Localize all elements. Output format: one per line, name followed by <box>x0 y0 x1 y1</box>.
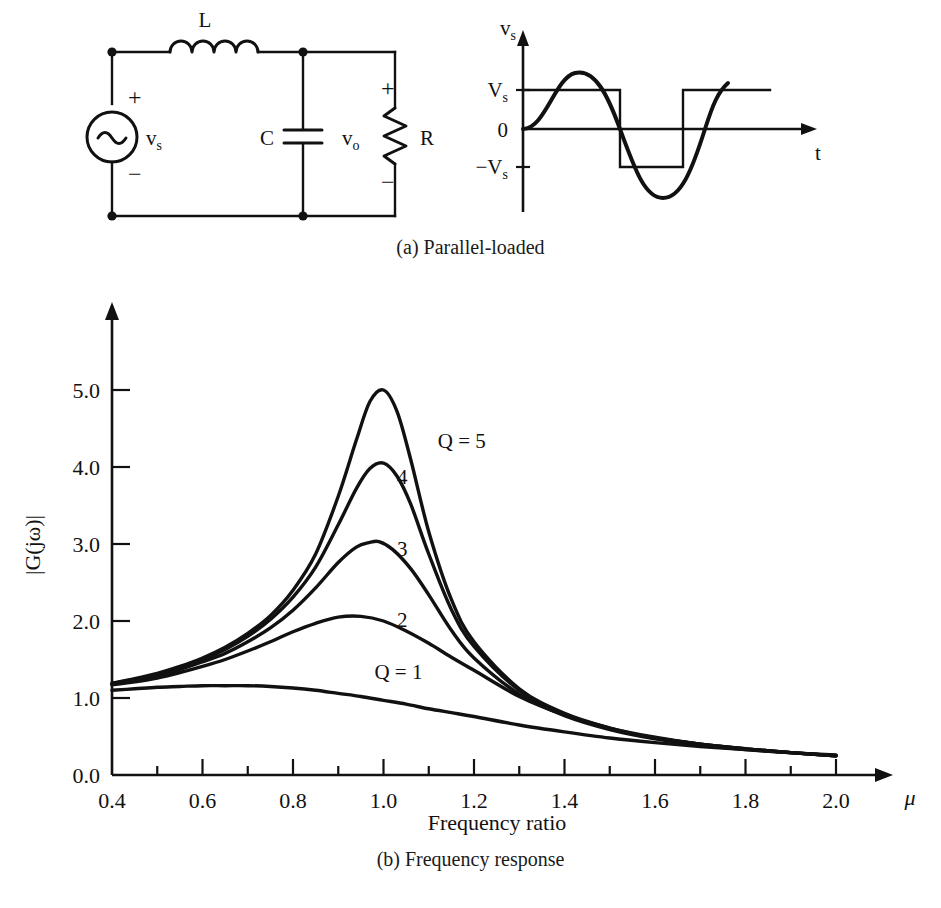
chart-x-axis-symbol: μ <box>903 785 915 810</box>
y-tick-label: 3.0 <box>73 532 101 557</box>
source-plus-sign: + <box>128 84 142 110</box>
waveform-level-positive-label: Vs <box>487 78 508 105</box>
y-tick-label: 0.0 <box>73 763 101 788</box>
x-tick-label: 0.6 <box>189 788 217 813</box>
response-curve <box>112 686 836 755</box>
waveform-x-axis-arrowhead <box>801 123 817 135</box>
waveform-y-axis-label: vs <box>500 16 516 43</box>
curve-label: Q = 1 <box>374 660 422 684</box>
node-bottom-mid <box>298 211 307 220</box>
x-tick-label: 0.8 <box>279 788 307 813</box>
node-bottom-left <box>107 211 116 220</box>
y-tick-label: 1.0 <box>73 686 101 711</box>
chart-x-ticks: 0.40.60.81.01.21.41.61.82.0 <box>98 759 850 813</box>
curve-label: Q = 5 <box>438 429 486 453</box>
y-tick-label: 2.0 <box>73 609 101 634</box>
waveform-svg: vs t Vs 0 −Vs <box>460 0 880 235</box>
figure-root: L C R + − vs + − vo <box>0 0 941 908</box>
circuit-svg: L C R + − vs + − vo <box>0 0 470 235</box>
capacitor-label: C <box>260 126 274 150</box>
circuit-diagram-panel: L C R + − vs + − vo <box>0 0 470 235</box>
waveform-level-zero-label: 0 <box>498 118 509 142</box>
waveform-diagram-panel: vs t Vs 0 −Vs <box>460 0 880 235</box>
resistor-symbol <box>384 108 406 164</box>
ac-source-sine-glyph <box>98 133 126 144</box>
chart-axes <box>105 302 893 782</box>
curve-label: 4 <box>397 465 408 489</box>
output-plus-sign: + <box>381 75 395 101</box>
node-top-mid <box>298 47 307 56</box>
output-minus-sign: − <box>381 169 395 195</box>
response-curve <box>112 463 836 756</box>
x-tick-label: 2.0 <box>822 788 850 813</box>
x-tick-label: 1.0 <box>370 788 398 813</box>
waveform-y-axis-arrowhead <box>517 30 529 46</box>
y-tick-label: 4.0 <box>73 455 101 480</box>
output-voltage-label: vo <box>342 126 360 153</box>
source-minus-sign: − <box>128 161 142 187</box>
frequency-response-chart-panel: 0.01.02.03.04.05.0 0.40.60.81.01.21.41.6… <box>0 280 941 850</box>
frequency-response-chart: 0.01.02.03.04.05.0 0.40.60.81.01.21.41.6… <box>0 280 941 850</box>
y-tick-label: 5.0 <box>73 378 101 403</box>
sine-wave-trace <box>523 72 728 198</box>
curve-label: 3 <box>397 537 408 561</box>
inductor-label: L <box>199 8 212 32</box>
x-tick-label: 1.6 <box>641 788 669 813</box>
source-voltage-label: vs <box>146 126 162 153</box>
curve-label: 2 <box>397 608 408 632</box>
caption-b: (b) Frequency response <box>0 848 941 871</box>
inductor-symbol <box>170 41 258 52</box>
chart-y-axis-title: |G(jω)| <box>20 515 45 575</box>
node-top-left <box>107 47 116 56</box>
waveform-x-axis-label: t <box>815 141 821 165</box>
caption-a: (a) Parallel-loaded <box>0 236 941 259</box>
chart-y-ticks: 0.01.02.03.04.05.0 <box>73 378 131 788</box>
waveform-level-negative-label: −Vs <box>476 155 508 182</box>
chart-x-axis-arrowhead <box>875 768 893 782</box>
chart-x-axis-title: Frequency ratio <box>428 810 567 835</box>
x-tick-label: 0.4 <box>98 788 126 813</box>
chart-y-axis-arrowhead <box>105 302 119 320</box>
x-tick-label: 1.8 <box>732 788 760 813</box>
resistor-label: R <box>420 126 434 150</box>
